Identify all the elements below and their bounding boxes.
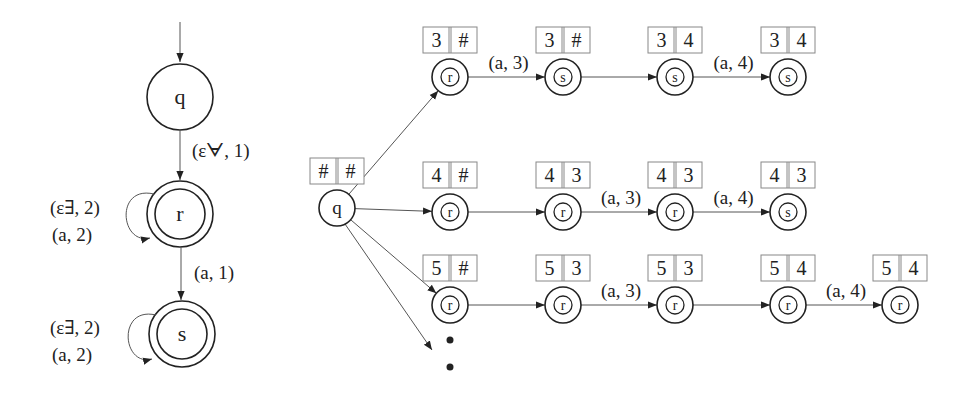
cell-box: 53: [648, 255, 702, 281]
continuation-dots: [447, 337, 454, 371]
node-label: r: [898, 298, 903, 313]
transition-label: (a, 4): [713, 187, 753, 209]
transition-label: (a, 3): [601, 187, 641, 209]
tree-node-r: r: [432, 194, 468, 230]
transition-label: (a, 3): [488, 52, 528, 74]
state-q: q: [147, 64, 213, 130]
self-loop-r-label-top: (ε∃, 2): [50, 197, 100, 219]
cell-value: 5: [657, 257, 667, 279]
state-s-label: s: [178, 321, 187, 346]
edge-root-continuation: [345, 224, 432, 350]
node-label: r: [448, 205, 453, 220]
cell-box: 4#: [423, 162, 477, 188]
node-label: s: [560, 70, 565, 85]
cell-value: 5: [432, 257, 442, 279]
cell-box: 54: [873, 255, 927, 281]
cell-box: 3#: [423, 27, 477, 53]
cell-value: #: [459, 164, 469, 186]
cell-value: #: [572, 29, 582, 51]
cell-box: 5#: [423, 255, 477, 281]
tree-node-r: r: [545, 287, 581, 323]
tree-node-r: r: [770, 287, 806, 323]
cell-value: #: [459, 29, 469, 51]
state-r-label: r: [176, 201, 184, 226]
node-label: r: [673, 298, 678, 313]
transition-label: (a, 3): [601, 280, 641, 302]
edge-root-row1: [355, 209, 432, 212]
cell-value: 4: [545, 164, 555, 186]
cell-value: 3: [770, 29, 780, 51]
cell-value: 4: [909, 257, 919, 279]
cell-box: 53: [536, 255, 590, 281]
cell-value: 4: [797, 29, 807, 51]
node-label: r: [561, 298, 566, 313]
node-label: r: [448, 70, 453, 85]
node-label: r: [786, 298, 791, 313]
tree-node-r: r: [432, 287, 468, 323]
node-label: s: [785, 205, 790, 220]
transition-label: (a, 4): [713, 52, 753, 74]
cell-value: 3: [572, 257, 582, 279]
edge-q-r-label: (εᗄ, 1): [192, 140, 250, 162]
node-label: r: [561, 205, 566, 220]
automaton: q (εᗄ, 1) r (ε∃, 2) (a, 2) (a, 1) s (ε∃,…: [50, 22, 250, 367]
cell-box: 34: [648, 27, 702, 53]
cell-value: #: [459, 257, 469, 279]
cell-value: 4: [797, 257, 807, 279]
cell-box: 43: [648, 162, 702, 188]
node-label: q: [332, 197, 342, 218]
cell-box: 43: [536, 162, 590, 188]
cell-box: 3#: [536, 27, 590, 53]
cell-value: 3: [545, 29, 555, 51]
self-loop-r-label-bottom: (a, 2): [52, 224, 92, 246]
cell-value: 4: [432, 164, 442, 186]
state-q-label: q: [175, 84, 186, 109]
tree-node-s: s: [545, 59, 581, 95]
node-label: r: [673, 205, 678, 220]
tree-node-s: s: [657, 59, 693, 95]
state-r: r: [147, 181, 213, 247]
diagram-canvas: q (εᗄ, 1) r (ε∃, 2) (a, 2) (a, 1) s (ε∃,…: [0, 0, 980, 403]
cell-box: 43: [761, 162, 815, 188]
edge-r-s-label: (a, 1): [194, 262, 234, 284]
cell-value: 3: [684, 164, 694, 186]
tree-node-r: r: [657, 194, 693, 230]
tree-node-q: q: [319, 190, 355, 226]
self-loop-s-label-top: (ε∃, 2): [50, 317, 100, 339]
cell-value: 5: [770, 257, 780, 279]
cell-value: 3: [684, 257, 694, 279]
tree-node-r: r: [432, 59, 468, 95]
cell-value: 5: [882, 257, 892, 279]
state-s: s: [149, 301, 215, 367]
tree-node-r: r: [545, 194, 581, 230]
node-label: s: [785, 70, 790, 85]
cell-value: 3: [432, 29, 442, 51]
node-label: r: [448, 298, 453, 313]
tree-node-s: s: [770, 59, 806, 95]
tree-node-r: r: [882, 287, 918, 323]
cell-box: 54: [761, 255, 815, 281]
transition-label: (a, 4): [826, 280, 866, 302]
cell-value: #: [319, 160, 329, 182]
cell-value: #: [346, 160, 356, 182]
cell-value: 4: [684, 29, 694, 51]
self-loop-s-label-bottom: (a, 2): [52, 344, 92, 366]
cell-value: 4: [770, 164, 780, 186]
tree-node-s: s: [770, 194, 806, 230]
root-cell-box: ##: [310, 158, 364, 184]
tree-node-r: r: [657, 287, 693, 323]
cell-value: 5: [545, 257, 555, 279]
cell-value: 3: [657, 29, 667, 51]
cell-value: 4: [657, 164, 667, 186]
cell-value: 3: [572, 164, 582, 186]
cell-box: 34: [761, 27, 815, 53]
node-label: s: [672, 70, 677, 85]
cell-value: 3: [797, 164, 807, 186]
run-tree: ##q(a, 3)3#r3#s(a, 4)34s34s4#r(a, 3)43r(…: [310, 27, 927, 371]
